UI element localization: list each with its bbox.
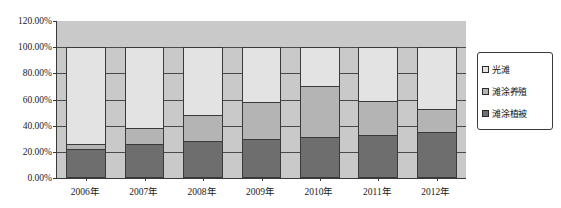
legend-item[interactable]: 光滩 — [482, 58, 549, 80]
x-axis-label: 2008年 — [173, 184, 231, 198]
chart-legend: 光滩滩涂养殖滩涂植被 — [477, 52, 553, 130]
x-axis-label: 2010年 — [290, 184, 348, 198]
x-axis-label: 2007年 — [114, 184, 172, 198]
legend-item[interactable]: 滩涂养殖 — [482, 80, 549, 102]
x-axis-label: 2006年 — [56, 184, 114, 198]
legend-swatch-icon — [482, 66, 489, 73]
legend-label: 光滩 — [492, 63, 510, 76]
legend-label: 滩涂植被 — [492, 107, 527, 120]
x-axis-label: 2012年 — [407, 184, 465, 198]
legend-label: 滩涂养殖 — [492, 85, 527, 98]
legend-swatch-icon — [482, 88, 489, 95]
legend-item[interactable]: 滩涂植被 — [482, 102, 549, 124]
x-axis-label: 2011年 — [348, 184, 406, 198]
chart-container: 120.00%100.00%80.00%60.00%40.00%20.00%0.… — [0, 0, 561, 208]
legend-swatch-icon — [482, 110, 489, 117]
x-axis-label: 2009年 — [231, 184, 289, 198]
